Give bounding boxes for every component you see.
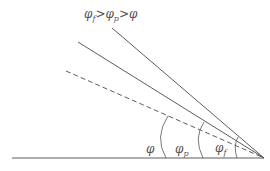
label-phi: φ xyxy=(146,142,155,156)
friction-angle-diagram: φf>φp>φ φ φp φf xyxy=(0,0,270,171)
label-phi-p: φp xyxy=(175,142,189,158)
ray-phi-dashed xyxy=(66,71,264,158)
label-phi-f: φf xyxy=(215,141,228,157)
inequality-title: φf>φp>φ xyxy=(84,7,138,23)
ray-phi-f xyxy=(112,28,264,158)
arc-phi-p xyxy=(198,122,204,158)
arc-phi xyxy=(160,116,168,158)
